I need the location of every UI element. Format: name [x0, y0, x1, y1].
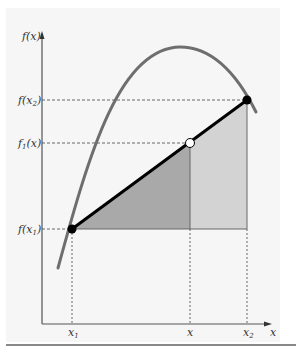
- label-f1x: f1(x): [17, 137, 41, 151]
- x-axis-label: x: [270, 326, 277, 339]
- label-x: x: [187, 326, 194, 339]
- label-fx1: f(x1): [17, 223, 41, 237]
- label-x2: x2: [243, 326, 254, 340]
- y-axis-label: f(x): [21, 30, 41, 43]
- label-fx2: f(x2): [17, 94, 41, 108]
- point-x1: [68, 225, 77, 234]
- label-x1: x1: [68, 326, 79, 340]
- point-x2: [243, 96, 252, 105]
- interpolation-diagram: f(x) f(x2) f1(x) f(x1) x1 x x2 x: [0, 0, 296, 351]
- point-interpolated: [186, 139, 195, 148]
